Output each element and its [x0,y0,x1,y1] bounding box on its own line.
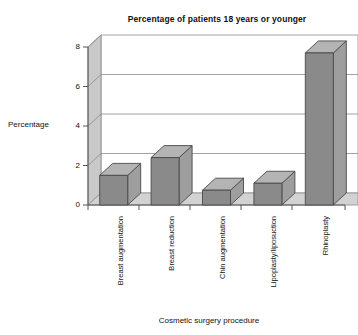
x-tick-label-lipoplasty-liposuction: Lipoplasty/liposuction [270,216,278,287]
x-tick-label-chin-augmentation: Chin augmentation [219,216,227,279]
y-tick-marks [83,47,88,205]
x-axis-title: Cosmetic surgery procedure [79,316,339,325]
y-axis-title: Percentage [8,120,66,129]
bar-4 [305,53,333,205]
bar-4 [333,41,346,205]
bar-chart: Percentage of patients 18 years or young… [0,0,358,335]
y-tick-label-8: 8 [60,43,80,51]
bar-0 [100,175,128,205]
x-tick-label-rhinoplasty: Rhinoplasty [322,216,330,255]
y-tick-label-0: 0 [60,201,80,209]
bar-2 [203,190,231,205]
y-tick-label-2: 2 [60,162,80,170]
x-tick-marks [88,205,345,210]
plot-area: 0 2 4 6 8 Percentage Breast augmentation… [0,0,358,335]
x-tick-label-breast-reduction: Breast reduction [168,216,176,271]
bar-3 [254,183,282,205]
bar-1 [151,158,179,205]
chart-canvas [0,0,358,335]
y-tick-label-6: 6 [60,83,80,91]
x-tick-label-breast-augmentation: Breast augmentation [117,216,125,285]
